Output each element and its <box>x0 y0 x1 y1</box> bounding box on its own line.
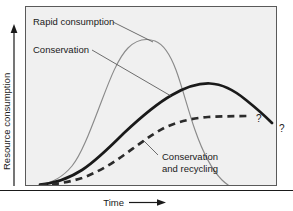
annotation-conservation-label: Conservation <box>33 44 89 55</box>
question-mark-solid-curve: ? <box>279 123 285 134</box>
question-mark-dashed-curve: ? <box>256 113 262 124</box>
annotation-conservation-and-recycling-label-line1: Conservation <box>162 151 218 162</box>
figure-container: Resource consumption Time Rapid consump <box>0 0 293 211</box>
annotation-rapid-consumption-label: Rapid consumption <box>33 16 114 27</box>
x-axis-label: Time <box>103 197 124 208</box>
annotation-conservation-and-recycling-label-line2: and recycling <box>162 163 218 174</box>
resource-consumption-chart: Resource consumption Time Rapid consump <box>0 0 293 211</box>
y-axis-label: Resource consumption <box>1 73 12 170</box>
